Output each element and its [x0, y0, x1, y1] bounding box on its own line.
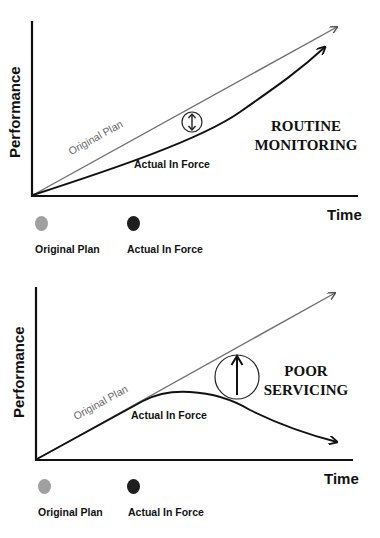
legend-dot-original-plan — [38, 479, 51, 494]
up-arrow-icon — [215, 355, 259, 399]
double-arrow-icon — [182, 112, 202, 132]
diagram-title: POOR SERVICING — [261, 362, 351, 400]
diagram-title: ROUTINE MONITORING — [246, 117, 366, 155]
actual-in-force-curve-label: Actual In Force — [134, 158, 210, 170]
x-axis-label: Time — [324, 470, 359, 487]
poor-servicing-plot — [0, 270, 380, 538]
legend-label-original-plan: Original Plan — [35, 243, 100, 255]
actual-in-force-curve-label: Actual In Force — [131, 409, 207, 421]
legend-label-actual-in-force: Actual In Force — [128, 506, 204, 518]
legend-label-original-plan: Original Plan — [38, 506, 103, 518]
actual-in-force-curve — [37, 392, 337, 459]
x-axis-label: Time — [327, 206, 362, 223]
legend-dot-original-plan — [35, 216, 48, 231]
title-line-2: MONITORING — [246, 136, 366, 155]
y-axis-label: Performance — [10, 326, 27, 418]
legend-label-actual-in-force: Actual In Force — [127, 243, 203, 255]
legend-dot-actual-in-force — [127, 216, 140, 231]
poor-servicing-diagram: Performance Time POOR SERVICING Original… — [0, 270, 380, 538]
y-axis-label: Performance — [6, 66, 23, 158]
legend-dot-actual-in-force — [127, 479, 140, 494]
title-line-2: SERVICING — [261, 381, 351, 400]
title-line-1: ROUTINE — [246, 117, 366, 136]
routine-monitoring-diagram: Performance Time ROUTINE MONITORING Orig… — [0, 0, 380, 270]
title-line-1: POOR — [261, 362, 351, 381]
